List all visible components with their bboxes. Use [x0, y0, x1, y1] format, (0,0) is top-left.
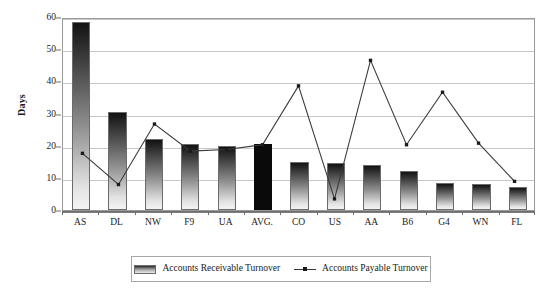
line-marker-b6: [405, 143, 408, 146]
y-tick-label-50: 50: [47, 45, 57, 55]
y-tick-mark-10: [56, 178, 61, 179]
y-tick-mark-0: [56, 211, 61, 212]
legend-label: Accounts Receivable Turnover: [162, 264, 280, 274]
line-marker-wn: [477, 141, 480, 144]
x-tick-mark-10: [426, 211, 427, 215]
plot-area: [62, 18, 535, 211]
x-axis-tick-labels: ASDLNWF9UAAVG.COUSAAB6G4WNFL: [62, 218, 535, 236]
line-marker-us: [333, 197, 336, 200]
x-tick-label-ua: UA: [219, 218, 233, 228]
x-tick-label-f9: F9: [184, 218, 194, 228]
y-tick-label-40: 40: [47, 78, 57, 88]
legend-entry-accounts-receivable-turnover[interactable]: Accounts Receivable Turnover: [134, 264, 280, 274]
chart-legend: Accounts Receivable Turnover Accounts Pa…: [131, 256, 431, 282]
line-marker-dl: [117, 183, 120, 186]
x-tick-mark-13: [534, 211, 535, 215]
x-tick-mark-11: [462, 211, 463, 215]
y-tick-label-60: 60: [47, 13, 57, 23]
x-tick-mark-1: [98, 211, 99, 215]
line-series-accounts-payable-turnover: [63, 19, 534, 210]
x-tick-label-co: CO: [292, 218, 305, 228]
x-tick-label-g4: G4: [438, 218, 450, 228]
y-tick-label-30: 30: [47, 110, 57, 120]
y-tick-label-10: 10: [47, 174, 57, 184]
x-tick-mark-4: [208, 211, 209, 215]
line-marker-as: [81, 152, 84, 155]
x-tick-mark-2: [135, 211, 136, 215]
line-marker-avg: [261, 143, 264, 146]
chart-container: Days 0102030405060 ASDLNWF9UAAVG.COUSAAB…: [0, 0, 557, 297]
x-tick-label-avg: AVG.: [251, 218, 273, 228]
x-tick-mark-5: [244, 211, 245, 215]
x-tick-label-dl: DL: [110, 218, 123, 228]
line-marker-ua: [225, 148, 228, 151]
x-tick-mark-0: [62, 211, 63, 215]
line-marker-nw: [153, 122, 156, 125]
x-tick-mark-8: [353, 211, 354, 215]
x-tick-label-aa: AA: [364, 218, 378, 228]
y-tick-mark-50: [56, 50, 61, 51]
x-tick-mark-3: [171, 211, 172, 215]
y-tick-label-20: 20: [47, 142, 57, 152]
y-axis-tick-labels: 0102030405060: [0, 18, 56, 211]
x-tick-mark-7: [317, 211, 318, 215]
x-tick-label-us: US: [329, 218, 341, 228]
y-tick-mark-60: [56, 18, 61, 19]
x-tick-mark-6: [280, 211, 281, 215]
x-tick-label-nw: NW: [145, 218, 161, 228]
bar-swatch-icon: [134, 265, 156, 274]
y-tick-mark-40: [56, 82, 61, 83]
line-marker-aa: [369, 59, 372, 62]
legend-entry-accounts-payable-turnover[interactable]: Accounts Payable Turnover: [294, 264, 428, 274]
x-tick-label-wn: WN: [473, 218, 489, 228]
x-tick-mark-9: [389, 211, 390, 215]
line-marker-fl: [513, 180, 516, 183]
y-tick-mark-30: [56, 114, 61, 115]
line-path: [82, 60, 514, 198]
x-tick-label-b6: B6: [402, 218, 413, 228]
line-marker-icon: [294, 265, 316, 273]
y-tick-mark-20: [56, 146, 61, 147]
line-marker-g4: [441, 91, 444, 94]
x-tick-label-fl: FL: [511, 218, 522, 228]
line-marker-co: [297, 84, 300, 87]
legend-label: Accounts Payable Turnover: [322, 264, 428, 274]
x-tick-mark-12: [499, 211, 500, 215]
x-tick-label-as: AS: [74, 218, 86, 228]
line-marker-f9: [189, 149, 192, 152]
